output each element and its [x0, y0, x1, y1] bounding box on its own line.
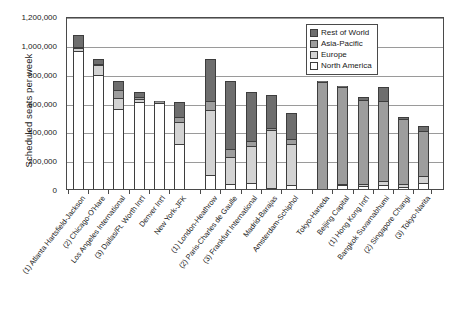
bar-segment-na [418, 183, 429, 189]
bar-stack[interactable] [225, 81, 236, 189]
bar-segment-ap [205, 101, 216, 110]
figure-caption [8, 303, 443, 314]
bar-segment-na [378, 185, 389, 189]
bar-stack[interactable] [418, 126, 429, 189]
bar-segment-eu [266, 130, 277, 188]
bar-segment-ap [337, 87, 348, 184]
bar-segment-na [358, 186, 369, 189]
y-axis-tick-label: 1,200,000 [21, 13, 57, 22]
plot-area [66, 17, 444, 190]
bar-segment-ap [317, 82, 328, 189]
legend-label-asia-pacific: Asia-Pacific [321, 39, 363, 48]
legend-label-europe: Europe [321, 50, 347, 59]
chart-legend: Rest of World Asia-Pacific Europe North … [306, 24, 378, 75]
bar-segment-rw [225, 81, 236, 149]
bar-stack[interactable] [358, 97, 369, 189]
legend-item-north-america: North America [310, 60, 372, 71]
bar-segment-eu [205, 110, 216, 175]
bar-segment-na [286, 185, 297, 189]
bar-stack[interactable] [154, 101, 165, 189]
legend-swatch-north-america [310, 62, 318, 70]
bar-segment-na [337, 185, 348, 189]
bar-segment-eu [93, 65, 104, 75]
bar-segment-rw [246, 92, 257, 142]
bar-segment-na [113, 109, 124, 189]
chart-figure: Scheduled seats per week 0200,000400,000… [0, 0, 451, 315]
bar-stack[interactable] [205, 59, 216, 189]
bar-segment-na [225, 184, 236, 189]
bar-segment-na [93, 75, 104, 189]
y-axis-tick-label: 600,000 [28, 99, 57, 108]
bar-stack[interactable] [378, 87, 389, 189]
bar-segment-rw [73, 35, 84, 47]
bar-segment-rw [113, 81, 124, 90]
legend-label-rest-of-world: Rest of World [321, 28, 369, 37]
bar-stack[interactable] [398, 117, 409, 189]
bar-stack[interactable] [246, 92, 257, 189]
bar-segment-ap [418, 131, 429, 176]
bar-segment-na [174, 144, 185, 189]
bar-segment-ap [225, 149, 236, 157]
x-axis-category-labels: (1) Atlanta Hartsfield-Jackson(2) Chicag… [66, 194, 451, 294]
bar-segment-na [73, 51, 84, 189]
bar-segment-na [154, 103, 165, 189]
y-axis-tick-label: 400,000 [28, 128, 57, 137]
legend-item-rest-of-world: Rest of World [310, 27, 372, 38]
bar-stack[interactable] [93, 59, 104, 189]
legend-item-europe: Europe [310, 49, 372, 60]
legend-swatch-asia-pacific [310, 40, 318, 48]
bar-segment-eu [174, 122, 185, 144]
bar-segment-rw [205, 59, 216, 101]
bar-stack[interactable] [134, 92, 145, 189]
bar-stack[interactable] [317, 81, 328, 189]
bar-segment-ap [398, 119, 409, 184]
bar-segment-na [134, 102, 145, 189]
bar-stack[interactable] [113, 81, 124, 189]
legend-swatch-europe [310, 51, 318, 59]
bar-stack[interactable] [337, 86, 348, 189]
bar-segment-na [266, 188, 277, 189]
legend-swatch-rest-of-world [310, 29, 318, 37]
bar-stack[interactable] [286, 113, 297, 189]
bar-segment-ap [378, 101, 389, 181]
bar-segment-na [398, 187, 409, 189]
bar-segment-rw [174, 102, 185, 117]
bar-segment-eu [246, 146, 257, 182]
y-axis-tick-label: 0 [53, 186, 57, 195]
bar-segment-eu [113, 98, 124, 109]
bar-segment-rw [266, 95, 277, 127]
bar-series-group [67, 18, 443, 189]
bar-segment-eu [286, 144, 297, 185]
bar-segment-na [205, 175, 216, 189]
bar-stack[interactable] [266, 95, 277, 189]
y-axis-tick-label: 1,000,000 [21, 41, 57, 50]
bar-segment-na [246, 183, 257, 189]
legend-item-asia-pacific: Asia-Pacific [310, 38, 372, 49]
bar-segment-eu [225, 157, 236, 184]
bar-stack[interactable] [174, 102, 185, 189]
y-axis-tick-label: 200,000 [28, 157, 57, 166]
legend-label-north-america: North America [321, 61, 372, 70]
bar-segment-ap [113, 90, 124, 98]
bar-segment-rw [378, 87, 389, 101]
y-axis-tick-labels: 0200,000400,000600,000800,0001,000,0001,… [0, 17, 62, 190]
y-axis-tick-label: 800,000 [28, 70, 57, 79]
bar-segment-ap [358, 100, 369, 184]
bar-segment-rw [286, 113, 297, 140]
bar-stack[interactable] [73, 35, 84, 189]
